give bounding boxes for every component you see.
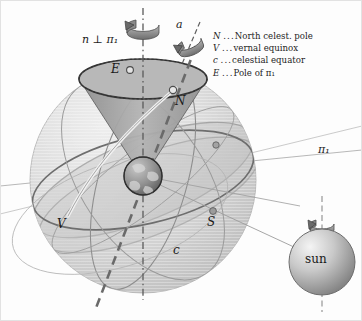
label-south-pole: S: [207, 216, 215, 228]
legend-row: V ...vernal equinox: [213, 42, 313, 54]
label-plane-pi1: π₁: [318, 144, 330, 155]
label-normal-axis: n ⊥ π₁: [82, 34, 118, 45]
legend-symbol: c: [213, 55, 218, 65]
legend-dots: ...: [221, 55, 233, 65]
node-marker-right: [213, 142, 219, 148]
earth-globe: [124, 157, 162, 195]
legend-text: celestial equator: [232, 55, 305, 65]
legend-text: North celest. pole: [235, 31, 313, 41]
label-celestial-equator: c: [173, 244, 180, 256]
legend-text: Pole of π₁: [234, 68, 275, 78]
label-vernal-equinox: V: [57, 218, 66, 230]
legend-dots: ...: [222, 68, 234, 78]
legend-row: N ...North celest. pole: [213, 30, 313, 42]
rotation-arrow-n-icon: [125, 20, 159, 40]
label-north-pole: N: [175, 95, 186, 107]
legend-symbol: N: [213, 31, 221, 41]
north-pole-marker: [169, 86, 176, 93]
legend-text: vernal equinox: [233, 43, 298, 53]
label-spin-axis: a: [176, 19, 183, 30]
label-sun: sun: [305, 253, 327, 265]
pole-E-marker: [127, 67, 134, 74]
precession-diagram: n ⊥ π₁ a E N S V c π₁ sun N ...North cel…: [0, 0, 362, 321]
legend-dots: ...: [223, 31, 235, 41]
legend-row: c ...celestial equator: [213, 54, 313, 66]
label-pole-E: E: [111, 63, 120, 75]
legend-row: E ...Pole of π₁: [213, 67, 313, 79]
legend-dots: ...: [222, 43, 234, 53]
legend: N ...North celest. pole V ...vernal equi…: [213, 30, 313, 79]
legend-symbol: E: [213, 68, 219, 78]
legend-symbol: V: [213, 43, 219, 53]
node-marker-south: [210, 208, 217, 215]
